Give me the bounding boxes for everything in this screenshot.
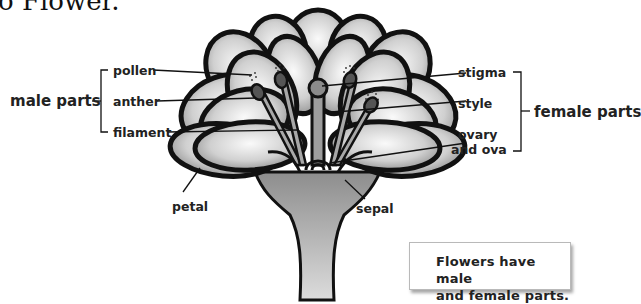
stem: [255, 172, 380, 300]
sepal-label: sepal: [356, 202, 394, 215]
filament-label: filament: [113, 126, 171, 139]
anther-label: anther: [113, 95, 160, 108]
pollen-label: pollen: [113, 64, 156, 77]
petal-label: petal: [172, 200, 208, 213]
ovary-label-line1: ovary: [458, 128, 497, 141]
ovary-label-line2: and ova: [451, 143, 507, 156]
female-parts-label: female parts: [534, 103, 641, 121]
note-line-2: and female parts.: [436, 287, 570, 304]
stigma-label: stigma: [458, 66, 506, 79]
note-line-1: Flowers have male: [436, 253, 570, 287]
caption-note-box: Flowers have male and female parts.: [409, 242, 571, 290]
style-label: style: [458, 97, 492, 110]
male-parts-label: male parts: [10, 92, 101, 110]
